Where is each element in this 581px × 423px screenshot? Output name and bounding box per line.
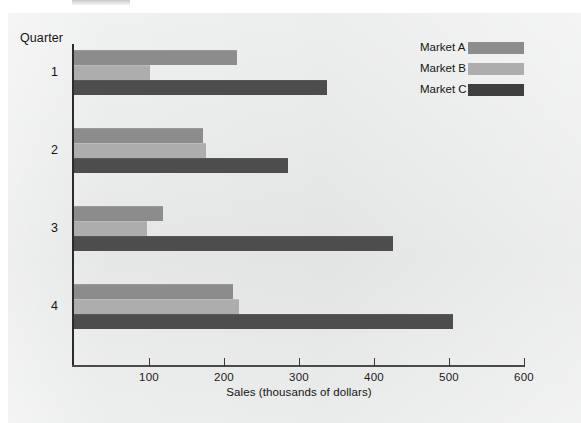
bar-market-b-q3 [74, 221, 147, 236]
bar-market-c-q3 [74, 236, 393, 251]
x-tick-label: 600 [502, 371, 546, 383]
legend-label: Market B [420, 62, 466, 74]
chart-legend: Market AMarket BMarket C [420, 40, 560, 103]
bar-market-a-q3 [74, 206, 163, 221]
x-tick-mark [449, 358, 450, 367]
category-label-q3: 3 [24, 221, 58, 235]
x-tick-mark [224, 358, 225, 367]
bar-market-c-q2 [74, 158, 288, 173]
x-tick-label: 500 [427, 371, 471, 383]
bar-market-a-q1 [74, 50, 237, 65]
bar-market-c-q1 [74, 80, 327, 95]
x-tick-mark [524, 358, 525, 367]
legend-item: Market B [420, 61, 560, 82]
bar-market-c-q4 [74, 314, 453, 329]
legend-swatch [468, 42, 524, 54]
chart-figure: Quarter 100200300400500600 1234 Sales (t… [0, 0, 581, 423]
x-tick-mark [374, 358, 375, 367]
legend-swatch [468, 84, 524, 96]
legend-swatch [468, 63, 524, 75]
x-tick-label: 400 [352, 371, 396, 383]
bar-market-b-q2 [74, 143, 206, 158]
scan-artifact [72, 0, 130, 5]
x-tick-label: 300 [277, 371, 321, 383]
x-tick-mark [149, 358, 150, 367]
x-tick-label: 200 [202, 371, 246, 383]
legend-label: Market A [420, 41, 465, 53]
category-label-q2: 2 [24, 143, 58, 157]
x-axis-title: Sales (thousands of dollars) [74, 386, 524, 398]
legend-item: Market A [420, 40, 560, 61]
bar-market-b-q4 [74, 299, 239, 314]
bar-market-b-q1 [74, 65, 150, 80]
category-label-q1: 1 [24, 65, 58, 79]
bar-market-a-q4 [74, 284, 233, 299]
legend-item: Market C [420, 82, 560, 103]
y-axis-title: Quarter [20, 31, 63, 45]
bar-market-a-q2 [74, 128, 203, 143]
x-tick-label: 100 [127, 371, 171, 383]
x-tick-mark [299, 358, 300, 367]
category-label-q4: 4 [24, 299, 58, 313]
x-axis-line [72, 365, 524, 367]
legend-label: Market C [420, 83, 467, 95]
